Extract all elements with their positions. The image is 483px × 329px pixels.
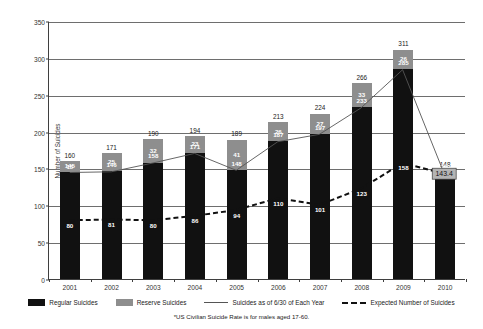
plot-area: Number of Suicides 050100150200250300350… [48, 22, 465, 280]
legend-item[interactable]: Suicides as of 6/30 of Each Year [204, 299, 324, 306]
bar-segment-regular[interactable] [435, 177, 455, 279]
expected-value-label: 158 [393, 165, 413, 171]
legend-swatch-solid-icon [204, 302, 228, 303]
x-tick-mark [216, 279, 217, 282]
bar-total-label: 224 [310, 105, 330, 111]
y-tick-label: 0 [41, 277, 45, 284]
legend-label: Suicides as of 6/30 of Each Year [232, 299, 324, 306]
regular-value-label: 171 [185, 144, 205, 150]
bar-total-label: 160 [60, 153, 80, 159]
bar-segment-regular[interactable] [185, 153, 205, 279]
bar-series-group: 1516014580251711468132190158802319417186… [49, 22, 465, 279]
bar-stack[interactable]: 1516014580 [60, 161, 80, 279]
x-tick-label: 2008 [354, 284, 369, 291]
bar-stack[interactable]: 26213187110 [268, 122, 288, 279]
x-tick-mark [49, 279, 50, 282]
x-tick-mark [299, 279, 300, 282]
chart-footnote: *US Civilian Suicide Rate is for males a… [0, 313, 483, 320]
x-tick-label: 2010 [438, 284, 453, 291]
bar-segment-regular[interactable] [268, 141, 288, 279]
x-tick-mark [132, 279, 133, 282]
legend-label: Reserve Suicides [137, 299, 187, 306]
x-tick-mark [174, 279, 175, 282]
x-tick-label: 2003 [146, 284, 161, 291]
expected-value-label: 94 [227, 213, 247, 219]
bar-stack[interactable]: 27224197101 [310, 114, 330, 279]
bar-stack[interactable]: 9148139 [435, 170, 455, 279]
bar-total-label: 311 [393, 41, 413, 47]
expected-value-label: 110 [268, 201, 288, 207]
bar-total-label: 190 [143, 131, 163, 137]
regular-value-label: 233 [352, 98, 372, 104]
y-tick-label: 100 [34, 203, 45, 210]
x-tick-label: 2006 [271, 284, 286, 291]
x-tick-mark [91, 279, 92, 282]
regular-value-label: 146 [102, 162, 122, 168]
x-tick-label: 2007 [313, 284, 328, 291]
expected-value-label: 80 [143, 223, 163, 229]
regular-value-label: 197 [310, 125, 330, 131]
x-tick-mark [341, 279, 342, 282]
x-tick-label: 2001 [63, 284, 78, 291]
chart-legend: Regular SuicidesReserve SuicidesSuicides… [0, 299, 483, 306]
bar-stack[interactable]: 2319417186 [185, 136, 205, 279]
bar-total-label: 194 [185, 128, 205, 134]
legend-swatch-dashed-icon [342, 302, 366, 304]
x-tick-label: 2005 [229, 284, 244, 291]
bar-segment-reserve[interactable]: 9 [435, 170, 455, 177]
regular-value-label: 145 [60, 163, 80, 169]
bar-stack[interactable]: 33266233123 [352, 83, 372, 279]
reserve-value-label: 9 [435, 170, 455, 176]
y-tick-label: 150 [34, 166, 45, 173]
expected-value-label: 101 [310, 207, 330, 213]
bar-total-label: 213 [268, 114, 288, 120]
bar-stack[interactable]: 2517114681 [102, 153, 122, 279]
y-tick-label: 250 [34, 92, 45, 99]
bar-segment-regular[interactable] [143, 163, 163, 279]
x-tick-mark [258, 279, 259, 282]
bar-total-label: 171 [102, 145, 122, 151]
legend-label: Expected Number of Suicides [370, 299, 454, 306]
bar-segment-regular[interactable] [393, 69, 413, 279]
regular-value-label: 187 [268, 132, 288, 138]
bar-segment-regular[interactable] [227, 170, 247, 279]
legend-item[interactable]: Regular Suicides [28, 299, 97, 306]
bar-total-label: 189 [227, 131, 247, 137]
bar-stack[interactable]: 4118914894 [227, 140, 247, 279]
y-tick-label: 300 [34, 55, 45, 62]
reserve-value-label: 41 [227, 152, 247, 158]
x-tick-mark [466, 279, 467, 282]
legend-item[interactable]: Reserve Suicides [116, 299, 187, 306]
legend-item[interactable]: Expected Number of Suicides [342, 299, 454, 306]
bar-stack[interactable]: 26311285158 [393, 50, 413, 279]
bar-total-label: 266 [352, 75, 372, 81]
x-tick-mark [383, 279, 384, 282]
regular-value-label: 139 [435, 164, 455, 170]
legend-label: Regular Suicides [49, 299, 97, 306]
legend-swatch-gray-icon [116, 299, 133, 306]
y-tick-label: 200 [34, 129, 45, 136]
x-tick-label: 2009 [396, 284, 411, 291]
bar-stack[interactable]: 3219015880 [143, 139, 163, 279]
regular-value-label: 158 [143, 153, 163, 159]
expected-value-label: 123 [352, 191, 372, 197]
x-tick-label: 2002 [104, 284, 119, 291]
regular-value-label: 285 [393, 60, 413, 66]
legend-swatch-black-icon [28, 299, 45, 306]
x-tick-label: 2004 [188, 284, 203, 291]
expected-value-label: 86 [185, 218, 205, 224]
y-tick-label: 50 [38, 240, 45, 247]
expected-value-label: 80 [60, 223, 80, 229]
y-tick-label: 350 [34, 19, 45, 26]
x-tick-mark [424, 279, 425, 282]
expected-value-label: 81 [102, 222, 122, 228]
regular-value-label: 148 [227, 161, 247, 167]
chart-container: Number of Suicides 050100150200250300350… [0, 0, 483, 329]
